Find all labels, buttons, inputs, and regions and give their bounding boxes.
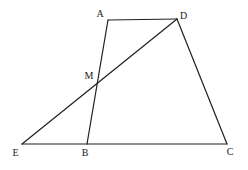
- point-label-E: E: [12, 147, 18, 158]
- segment-AD: [108, 19, 177, 20]
- geometry-diagram: ADMEBC: [0, 0, 248, 170]
- point-label-B: B: [82, 147, 89, 158]
- segment-ED: [22, 19, 177, 144]
- point-label-A: A: [96, 8, 104, 19]
- segment-AB: [87, 20, 108, 144]
- point-label-D: D: [180, 10, 187, 21]
- trapezoid-figure-svg: ADMEBC: [0, 0, 248, 170]
- point-label-C: C: [227, 146, 234, 157]
- segment-DC: [177, 19, 227, 144]
- point-label-M: M: [85, 70, 94, 81]
